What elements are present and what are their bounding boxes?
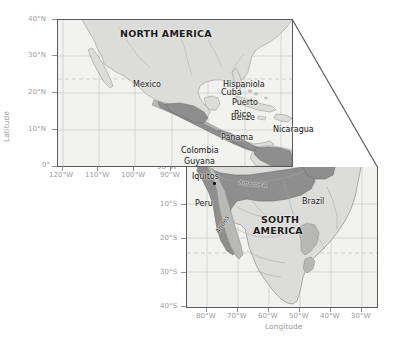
lat-tick-40s: 40°S [160, 302, 177, 310]
label-south: SOUTH [261, 214, 299, 225]
label-guyana: Nicaragua [273, 125, 314, 134]
iquitos-marker [213, 182, 216, 185]
north-america-panel: NORTH AMERICA Mexico Cuba Belize Panama … [57, 19, 293, 167]
lat-tick-40n: 40°N [28, 15, 46, 23]
lat-tick-10s: 10°S [160, 200, 177, 208]
map-figure: 40°N 30°N 20°N 10°N 0° 120°W 110°W 100°W… [0, 0, 394, 339]
lon-tick-40w: 40°W [320, 312, 340, 320]
label-iquitos: Iquitos [192, 172, 219, 181]
lon-tickmark-40w [330, 308, 331, 312]
panel-connector [291, 18, 379, 170]
lon-tickmark-50w [299, 308, 300, 312]
lon-tick-90w: 90°W [160, 171, 180, 179]
label-mexico: Mexico [133, 80, 161, 89]
lon-tick-30w: 30°W [351, 312, 371, 320]
south-america-map-svg [187, 167, 377, 307]
label-peru: Peru [195, 199, 213, 208]
lon-tickmark-70w [237, 308, 238, 312]
label-hispaniola: Hispaniola [223, 80, 265, 89]
lon-tick-110w: 110°W [85, 171, 109, 179]
y-axis-title: Latitude [2, 111, 11, 142]
lon-tick-80w: 80°W [196, 312, 216, 320]
lon-tickmark-100w [133, 167, 134, 171]
lon-tickmark-60w [268, 308, 269, 312]
south-america-panel: Peru Brazil SOUTH AMERICA Andes Amazon R… [186, 167, 378, 308]
north-america-map-svg [58, 20, 292, 166]
lat-tick-30n: 30°N [28, 51, 46, 59]
label-brazil: Brazil [302, 197, 324, 206]
label-rico: Rico [234, 110, 251, 119]
label-panama: Colombia [181, 146, 219, 155]
lon-tick-60w: 60°W [258, 312, 278, 320]
label-nicaragua: Panama [221, 133, 253, 142]
lat-tick-0: 0° [42, 161, 50, 169]
lon-tick-50w: 50°W [289, 312, 309, 320]
lat-tick-30s: 30°S [160, 268, 177, 276]
label-america: AMERICA [253, 225, 303, 236]
lon-tickmark-80w [206, 308, 207, 312]
lat-tick-10n: 10°N [28, 125, 46, 133]
lon-tick-120w: 120°W [49, 171, 73, 179]
label-puerto: Puerto [232, 98, 258, 107]
label-colombia: Guyana [184, 157, 215, 166]
lon-tickmark-110w [97, 167, 98, 171]
lon-tick-100w: 100°W [121, 171, 145, 179]
x-axis-title: Longitude [265, 322, 302, 331]
lat-tick-20n: 20°N [28, 88, 46, 96]
label-north-america: NORTH AMERICA [120, 28, 212, 39]
lon-tick-70w: 70°W [227, 312, 247, 320]
lon-tickmark-120w [62, 167, 63, 171]
lat-tick-20s: 20°S [160, 234, 177, 242]
label-cuba: Cuba [221, 88, 242, 97]
lon-tickmark-30w [361, 308, 362, 312]
